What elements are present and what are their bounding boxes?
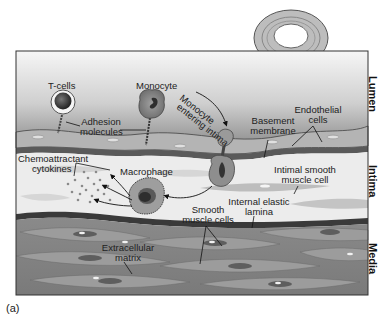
figure-caption: (a) [6, 302, 19, 314]
label-adhesion-molecules: Adhesion molecules [80, 117, 122, 137]
label-endothelial-cells: Endothelial cells [292, 105, 344, 125]
region-label-intima: Intima [367, 165, 379, 197]
label-chemo-2: cytokines [18, 164, 98, 174]
label-smooth-muscle-cells: Smooth muscle cells [178, 205, 238, 225]
label-extracellular-matrix: Extracellular matrix [98, 243, 158, 263]
label-chemoattractant-cytokines: Chemoattractant cytokines [18, 154, 98, 174]
label-intimal-smc-2: muscle cell [272, 175, 338, 185]
label-macrophage: Macrophage [120, 167, 173, 177]
label-monocyte: Monocyte [136, 81, 177, 91]
label-intimal-smooth-muscle-cell: Intimal smooth muscle cell [272, 165, 338, 185]
label-endothelial-2: cells [292, 115, 344, 125]
label-basement-2: membrane [247, 126, 299, 136]
label-ecm-2: matrix [98, 253, 158, 263]
region-label-lumen: Lumen [367, 76, 379, 112]
region-label-media: Media [367, 243, 379, 274]
label-adhesion-2: molecules [80, 127, 122, 137]
label-smc-2: muscle cells [178, 215, 238, 225]
label-t-cells: T-cells [48, 81, 75, 91]
